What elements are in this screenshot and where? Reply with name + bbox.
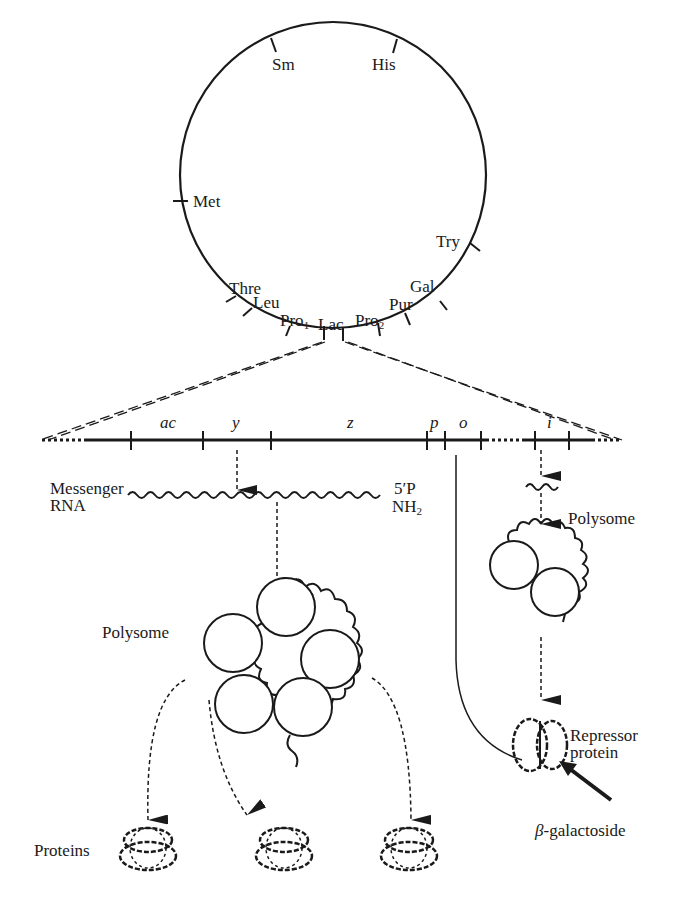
proteins-label: Proteins — [34, 841, 90, 860]
polysome-right-label: Polysome — [568, 509, 635, 528]
marker-met: Met — [193, 192, 221, 211]
gene-o: o — [459, 413, 468, 432]
mrna-5p: 5′P — [394, 479, 416, 498]
repressor-pathway: Polysome — [490, 450, 635, 700]
marker-pro1: Pro1 — [280, 311, 309, 331]
marker-pur: Pur — [389, 295, 413, 314]
lac-operon-diagram: Sm His Met Try Thre Leu Pro1 Lac Pro2 Pu… — [0, 0, 687, 898]
marker-pro2: Pro2 — [355, 311, 384, 331]
marker-leu: Leu — [253, 293, 280, 312]
protein-blob-3 — [381, 828, 437, 870]
gene-z: z — [346, 413, 354, 432]
marker-gal: Gal — [410, 277, 435, 296]
chromosome-circle — [173, 22, 486, 341]
protein-blob-1 — [120, 828, 176, 870]
inducer-arrow: β-galactoside — [534, 761, 626, 840]
mrna-nh2: NH2 — [392, 497, 422, 517]
marker-his: His — [372, 55, 396, 74]
gene-p: p — [429, 413, 439, 432]
marker-try: Try — [436, 232, 460, 251]
inducer-label: β-galactoside — [534, 821, 626, 840]
gene-y: y — [230, 413, 240, 432]
marker-lac: Lac — [318, 315, 344, 334]
polysome-left: Polysome — [102, 574, 362, 767]
messenger-rna: Messenger RNA 5′P NH2 — [50, 479, 422, 517]
operator-repressor-line — [456, 455, 522, 760]
mrna-label-2: RNA — [50, 496, 87, 515]
lac-operon-map: ac y z p o i — [42, 413, 622, 450]
proteins: Proteins — [34, 828, 437, 870]
marker-sm: Sm — [272, 55, 295, 74]
repressor-protein: Repressor protein — [513, 719, 638, 771]
zoom-expansion-lines — [40, 342, 622, 440]
gene-i: i — [547, 413, 552, 432]
chromosome-labels: Sm His Met Try Thre Leu Pro1 Lac Pro2 Pu… — [193, 55, 460, 334]
polysome-left-label: Polysome — [102, 623, 169, 642]
protein-blob-2 — [256, 828, 312, 870]
repressor-label-2: protein — [570, 743, 619, 762]
gene-ac: ac — [160, 413, 177, 432]
